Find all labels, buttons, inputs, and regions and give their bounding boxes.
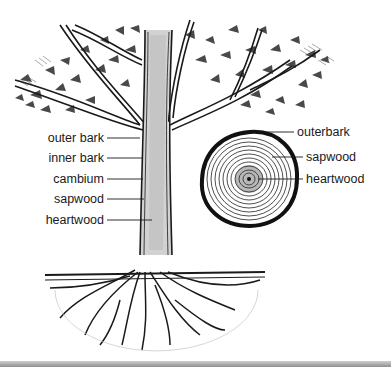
label-outer-bark: outer bark <box>48 132 104 145</box>
label-cross-heartwood: heartwood <box>306 173 364 186</box>
label-inner-bark: inner bark <box>48 152 104 165</box>
label-cross-sapwood: sapwood <box>306 151 356 164</box>
label-heartwood: heartwood <box>46 214 104 227</box>
label-cambium: cambium <box>53 173 104 186</box>
tree-trunk <box>140 30 172 255</box>
bottom-edge-band <box>0 361 391 367</box>
label-cross-outerbark: outerbark <box>297 126 350 139</box>
root-zone-outline <box>55 290 258 351</box>
roots <box>45 270 265 350</box>
label-sapwood: sapwood <box>54 193 104 206</box>
